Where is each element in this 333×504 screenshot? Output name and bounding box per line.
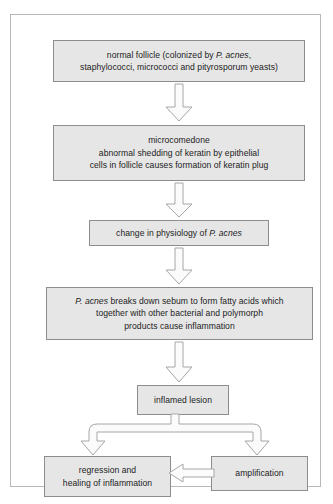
arrow-down-icon — [164, 84, 194, 122]
arrow-down-icon — [164, 248, 194, 285]
node-amplification-label: amplification — [231, 467, 287, 479]
node-microcomedone: microcomedone abnormal shedding of kerat… — [53, 125, 305, 181]
node-regression-healing-label: regression and healing of inflammation — [59, 464, 156, 489]
arrow-down-icon — [164, 342, 194, 383]
node-change-in-physiology: change in physiology of P. acnes — [89, 220, 269, 246]
node-normal-follicle-label: normal follicle (colonized by P. acnes, … — [76, 49, 282, 74]
node-amplification: amplification — [211, 456, 308, 491]
arrow-down-icon — [164, 183, 194, 218]
node-normal-follicle: normal follicle (colonized by P. acnes, … — [53, 40, 305, 82]
node-regression-healing: regression and healing of inflammation — [44, 456, 171, 497]
node-inflamed-lesion: inflamed lesion — [137, 385, 229, 415]
flowchart-canvas: normal follicle (colonized by P. acnes, … — [0, 0, 333, 504]
arrow-left-icon — [169, 462, 215, 484]
node-inflamed-lesion-label: inflamed lesion — [150, 394, 216, 406]
diagram-frame: normal follicle (colonized by P. acnes, … — [10, 14, 321, 487]
node-fatty-acids-inflammation: P. acnes breaks down sebum to form fatty… — [46, 287, 313, 340]
node-microcomedone-label: microcomedone abnormal shedding of kerat… — [86, 134, 273, 171]
arrow-split-down-icon — [39, 414, 311, 456]
node-change-in-physiology-label: change in physiology of P. acnes — [112, 227, 246, 239]
node-fatty-acids-inflammation-label: P. acnes breaks down sebum to form fatty… — [71, 295, 287, 332]
